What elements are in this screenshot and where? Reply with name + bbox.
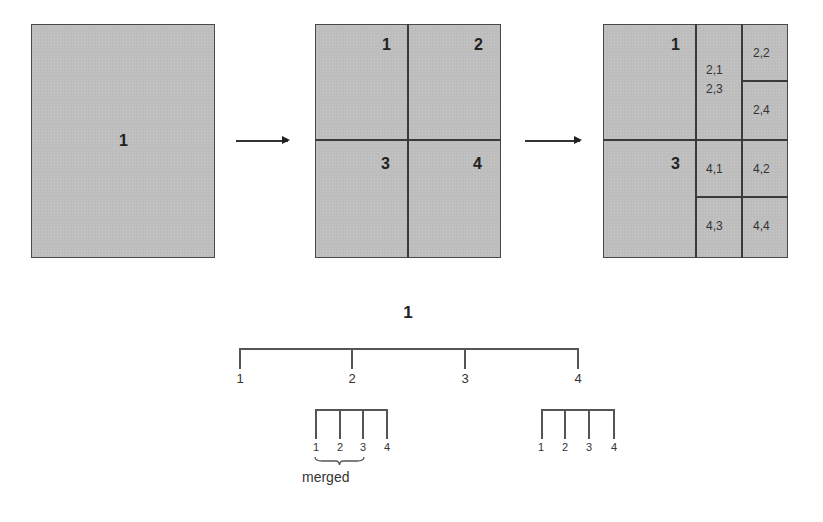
tree-branch (577, 348, 579, 369)
tree-child-4: 4 (574, 371, 581, 386)
arrow-icon (236, 140, 288, 142)
stage2-label-2: 2 (474, 36, 483, 54)
tree-child-1: 1 (236, 371, 243, 386)
stage3-sublabel-22: 2,2 (753, 46, 770, 61)
subtree-left-1: 1 (313, 441, 319, 453)
stage3-hdivider-q2 (741, 80, 788, 82)
subtree-left-4: 4 (384, 441, 390, 453)
stage2-label-1: 1 (382, 36, 391, 54)
subtree-right-bar (541, 409, 615, 411)
subtree-left-bar (315, 409, 387, 411)
stage3-label-1: 1 (671, 36, 680, 54)
tree-branch (351, 348, 353, 369)
tree-branch (386, 409, 388, 439)
tree-branch (613, 409, 615, 439)
tree-child-2: 2 (348, 371, 355, 386)
tree-branch (464, 348, 466, 369)
stage3-sublabel-41: 4,1 (706, 162, 723, 177)
subtree-right-1: 1 (538, 441, 544, 453)
subtree-right-4: 4 (611, 441, 617, 453)
stage3-sublabel-42: 4,2 (753, 162, 770, 177)
tree-branch (339, 409, 341, 439)
stage3-sublabel-24: 2,4 (753, 103, 770, 118)
stage3-sublabel-43: 4,3 (706, 219, 723, 234)
stage2-label-3: 3 (381, 155, 390, 173)
subtree-left-2: 2 (337, 441, 343, 453)
merged-brace-icon (314, 456, 366, 468)
subtree-left-3: 3 (360, 441, 366, 453)
stage3-sublabel-21: 2,1 (706, 63, 723, 78)
tree-branch (315, 409, 317, 439)
tree-child-3: 3 (461, 371, 468, 386)
arrow-icon (525, 140, 580, 142)
tree-root-label: 1 (403, 303, 412, 323)
tree-branch (541, 409, 543, 439)
stage3-sublabel-23: 2,3 (706, 82, 723, 97)
subtree-right-2: 2 (562, 441, 568, 453)
stage3-label-3: 3 (671, 155, 680, 173)
tree-branch (588, 409, 590, 439)
merged-label: merged (302, 469, 349, 485)
subtree-right-3: 3 (586, 441, 592, 453)
stage1-label: 1 (119, 132, 128, 150)
stage3-sublabel-44: 4,4 (753, 219, 770, 234)
stage3-vdivider-main (695, 24, 697, 258)
stage2-label-4: 4 (473, 155, 482, 173)
stage2-vdivider (407, 24, 409, 258)
tree-branch (564, 409, 566, 439)
stage3-hdivider-q4 (695, 196, 788, 198)
tree-branch (239, 348, 241, 369)
stage3-hdivider-main (603, 139, 788, 141)
tree-branch (362, 409, 364, 439)
stage3-vdivider-sub (741, 24, 743, 258)
stage2-hdivider (315, 139, 501, 141)
tree-bar (239, 348, 579, 350)
